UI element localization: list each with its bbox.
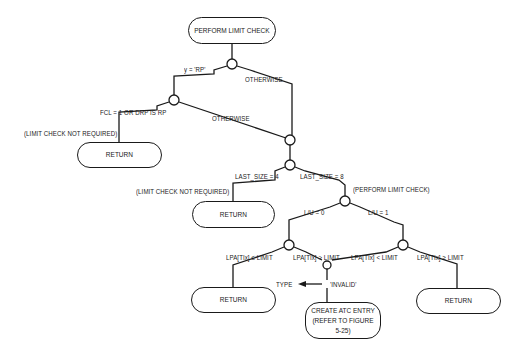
label-lpa-ge-limit: LPA[TIx] ≥ LIMIT [417,253,464,262]
merge-node [285,135,295,145]
label-otherwise-1: OTHERWISE [245,75,283,84]
start-perform-limit-check: PERFORM LIMIT CHECK [188,17,276,44]
label-lu-1: L/U = 1 [368,208,388,217]
label-last-size-8: LAST_SIZE = 8 [300,172,344,181]
merge-node-invalid [323,261,331,269]
terminal-return-1: RETURN [77,142,162,168]
label-perform-limit-check: (PERFORM LIMIT CHECK) [353,185,430,194]
label-lpa-le-limit: LPA[TIx] ≤ LIMIT [226,253,273,262]
label-lpa-gt-limit: LPA[TIx] > LIMIT [293,253,340,262]
label-invalid: 'INVALID' [330,280,356,289]
decision-node-fcl [169,95,179,105]
label-last-size-4: LAST_SIZE = 4 [235,172,279,181]
label-y-rp: y = 'RP' [184,65,206,74]
terminal-create-atc-entry: CREATE ATC ENTRY (REFER TO FIGURE 5-25) [305,302,381,339]
label-limit-not-required-2: (LIMIT CHECK NOT REQUIRED) [136,187,229,196]
refer-figure-label: (REFER TO FIGURE 5-25) [310,316,375,336]
label-lu-0: L/U = 0 [304,208,324,217]
return-label: RETURN [220,210,247,220]
label-fcl: FCL = 1 OR DRP IS RP [100,108,166,117]
return-label: RETURN [220,295,247,305]
label-type: TYPE [276,280,292,289]
return-label: RETURN [445,296,472,306]
start-label: PERFORM LIMIT CHECK [194,26,269,36]
create-atc-label: CREATE ATC ENTRY [311,306,375,316]
decision-node-y [227,59,237,69]
terminal-return-3: RETURN [191,287,276,313]
decision-node-lu [340,196,350,206]
label-limit-not-required-1: (LIMIT CHECK NOT REQUIRED) [24,129,117,138]
decision-node-last-size [285,160,295,170]
return-label: RETURN [106,150,133,160]
decision-node-lu0 [284,240,294,250]
terminal-return-4: RETURN [416,288,501,314]
decision-node-lu1 [398,240,408,250]
label-otherwise-2: OTHERWISE [212,114,250,123]
terminal-return-2: RETURN [192,201,275,228]
label-lpa-lt-limit: LPA[TIx] < LIMIT [351,253,398,262]
